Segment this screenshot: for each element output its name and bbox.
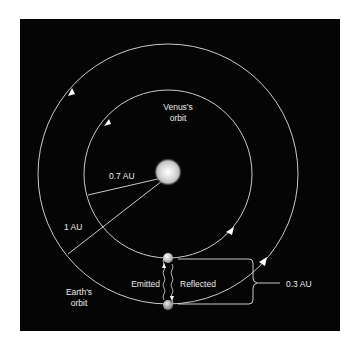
earth-orbit-label-line1: Earth's (66, 287, 92, 297)
reflected-label: Reflected (180, 279, 216, 289)
venus-planet (163, 253, 173, 263)
sun (154, 158, 182, 186)
venus-orbit-label-line2: orbit (170, 113, 187, 123)
earth-orbit-label-line2: orbit (71, 298, 88, 308)
orbit-diagram: Venus's orbit 0.7 AU 1 AU Earth's orbit … (0, 0, 356, 346)
earth-radius-label: 1 AU (64, 222, 82, 232)
venus-orbit-label-line1: Venus's (163, 102, 193, 112)
earth-planet (163, 300, 173, 310)
emitted-label: Emitted (131, 279, 160, 289)
venus-radius-label: 0.7 AU (109, 171, 135, 181)
gap-distance-label: 0.3 AU (286, 279, 312, 289)
